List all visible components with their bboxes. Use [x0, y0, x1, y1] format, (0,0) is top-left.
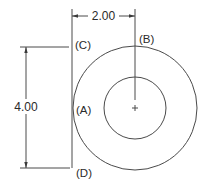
arrowhead-right-icon [129, 14, 135, 17]
horizontal-dimension: 2.00 [72, 9, 135, 168]
center-mark-icon [132, 105, 138, 111]
point-label-c: (C) [75, 39, 91, 51]
vertical-dimension: 4.00 [14, 47, 70, 168]
arrowhead-up-icon [24, 47, 27, 53]
dimension-label-2.00: 2.00 [92, 9, 116, 23]
point-label-d: (D) [76, 167, 92, 179]
arrowhead-down-icon [24, 162, 27, 168]
dimension-label-4.00: 4.00 [14, 100, 38, 114]
arrowhead-left-icon [72, 14, 78, 17]
technical-drawing: 2.00 4.00 (C) (B) (A) (D) [0, 0, 207, 187]
point-label-b: (B) [139, 33, 155, 45]
point-label-a: (A) [76, 104, 92, 116]
